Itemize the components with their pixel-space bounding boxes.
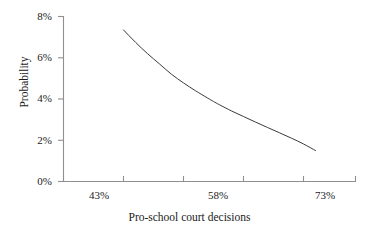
- y-tick-label-0: 0%: [18, 175, 52, 187]
- x-tick-label-73: 73%: [305, 189, 345, 201]
- y-axis-ticks: [58, 17, 63, 182]
- x-tick-label-43: 43%: [79, 189, 119, 201]
- x-axis-ticks: [64, 176, 356, 182]
- y-tick-label-2: 2%: [18, 134, 52, 146]
- y-axis-title: Probability: [18, 37, 30, 127]
- x-tick-label-58: 58%: [198, 189, 238, 201]
- chart-figure: 8% 6% 4% 2% 0% 43% 58% 73% Probability P…: [0, 0, 379, 236]
- x-axis-title: Pro-school court decisions: [0, 211, 379, 223]
- y-tick-label-8: 8%: [18, 10, 52, 22]
- data-series-line: [124, 30, 316, 151]
